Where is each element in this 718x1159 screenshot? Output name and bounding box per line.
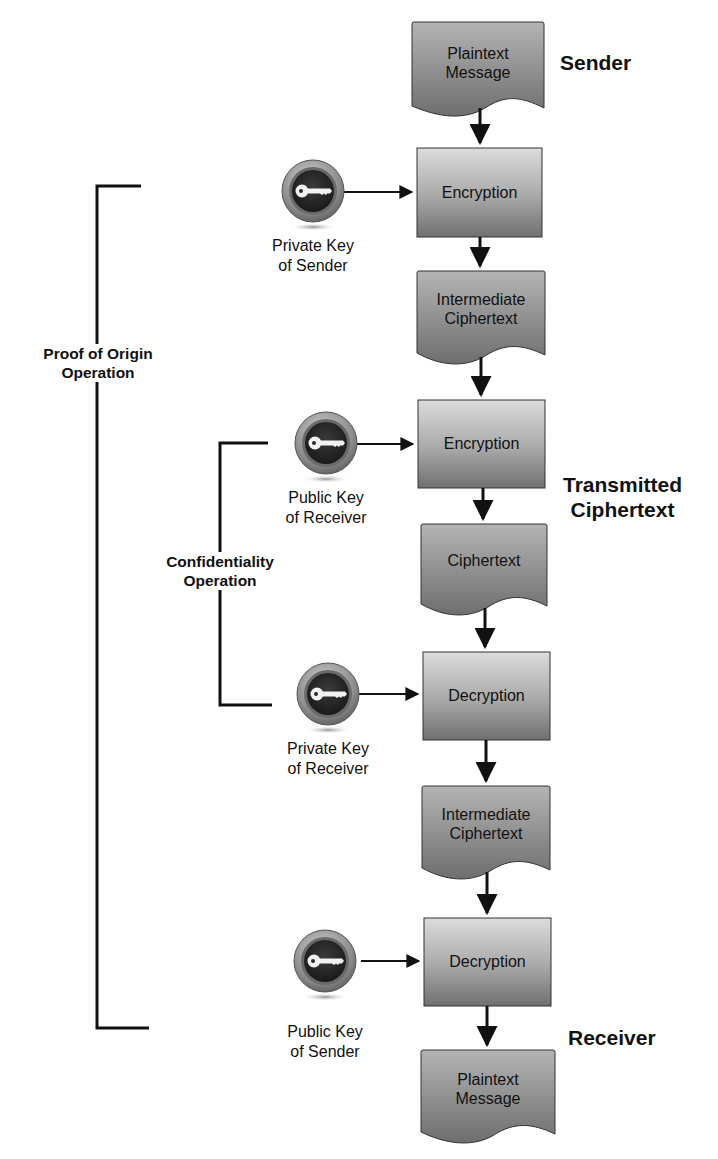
node-label: Decryption <box>423 686 550 705</box>
node-label: Plaintext Message <box>412 44 544 82</box>
key-label-line: of Sender <box>265 1042 385 1062</box>
key-arrows <box>343 192 419 961</box>
key-label: Private Key of Sender <box>253 236 373 276</box>
key-label-line: of Receiver <box>268 759 388 779</box>
node-label-line: Ciphertext <box>417 309 545 328</box>
node-label-line: Message <box>421 1089 555 1108</box>
key-icon <box>297 663 359 734</box>
key-label-line: Public Key <box>265 1022 385 1042</box>
label-proof-of-origin: Proof of Origin Operation <box>18 344 178 382</box>
node-label-line: Encryption <box>418 434 545 453</box>
key-icon <box>295 412 357 483</box>
node-label: Intermediate Ciphertext <box>417 290 545 328</box>
key-label-line: Public Key <box>266 488 386 508</box>
key-label-line: Private Key <box>268 739 388 759</box>
key-label-line: of Receiver <box>266 508 386 528</box>
label-line: Transmitted <box>563 472 682 497</box>
label-line: Operation <box>18 363 178 382</box>
label-receiver: Receiver <box>568 1025 656 1050</box>
key-label-line: Private Key <box>253 236 373 256</box>
key-icon <box>282 160 344 231</box>
node-label: Decryption <box>424 952 551 971</box>
node-label-line: Message <box>412 63 544 82</box>
node-label-line: Plaintext <box>412 44 544 63</box>
node-label: Intermediate Ciphertext <box>422 805 550 843</box>
node-label-line: Decryption <box>424 952 551 971</box>
node-label-line: Plaintext <box>421 1070 555 1089</box>
node-label-line: Ciphertext <box>422 824 550 843</box>
diagram-canvas <box>0 0 718 1159</box>
node-label: Plaintext Message <box>421 1070 555 1108</box>
node-label: Encryption <box>418 434 545 453</box>
key-icon <box>294 930 356 1001</box>
label-line: Operation <box>140 571 300 590</box>
node-label-line: Intermediate <box>422 805 550 824</box>
key-label: Public Key of Sender <box>265 1022 385 1062</box>
key-label: Public Key of Receiver <box>266 488 386 528</box>
node-label-line: Ciphertext <box>421 551 547 570</box>
node-label: Ciphertext <box>421 551 547 570</box>
label-confidentiality: Confidentiality Operation <box>140 552 300 590</box>
key-label-line: of Sender <box>253 256 373 276</box>
label-sender: Sender <box>560 50 631 75</box>
label-transmitted-ciphertext: Transmitted Ciphertext <box>563 472 682 522</box>
node-label-line: Intermediate <box>417 290 545 309</box>
bracket-proof-of-origin <box>97 186 149 1028</box>
label-line: Confidentiality <box>140 552 300 571</box>
key-label: Private Key of Receiver <box>268 739 388 779</box>
node-label-line: Decryption <box>423 686 550 705</box>
node-label: Encryption <box>417 183 542 202</box>
label-line: Ciphertext <box>563 497 682 522</box>
label-line: Proof of Origin <box>18 344 178 363</box>
node-label-line: Encryption <box>417 183 542 202</box>
